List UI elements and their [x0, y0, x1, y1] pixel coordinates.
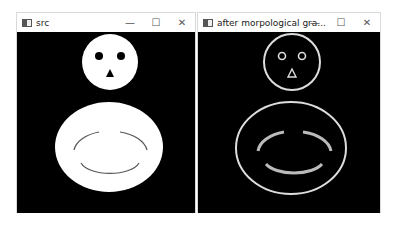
close-button[interactable]: ✕	[169, 13, 195, 32]
window-title: src	[36, 18, 49, 28]
title-bar[interactable]: src — ☐ ✕	[17, 13, 195, 32]
gradient-window: after morpological gra... — ☐ ✕	[197, 12, 381, 213]
src-image	[17, 32, 195, 213]
gradient-image	[198, 32, 380, 213]
app-icon	[22, 19, 32, 27]
src-window: src — ☐ ✕	[16, 12, 196, 213]
minimize-button[interactable]: —	[117, 13, 143, 32]
app-icon	[203, 19, 213, 27]
close-button[interactable]: ✕	[354, 13, 380, 32]
maximize-button[interactable]: ☐	[143, 13, 169, 32]
title-bar[interactable]: after morpological gra... — ☐ ✕	[198, 13, 380, 32]
minimize-button[interactable]: —	[302, 13, 328, 32]
maximize-button[interactable]: ☐	[328, 13, 354, 32]
